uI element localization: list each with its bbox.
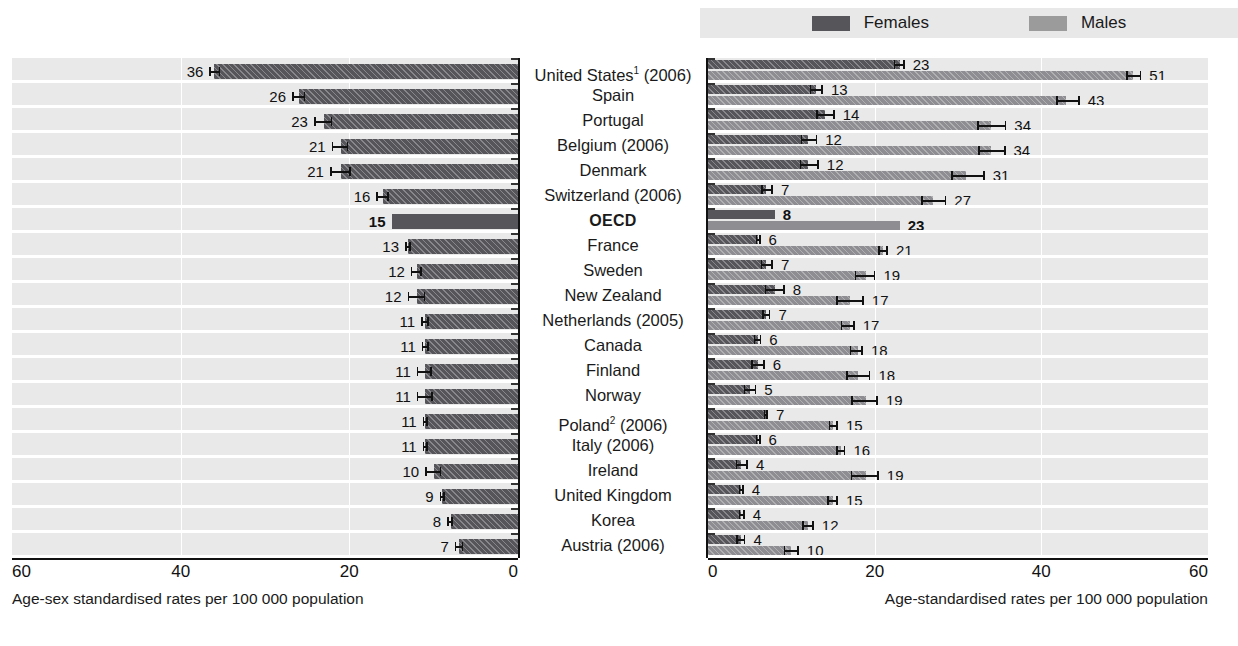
error-bar: [851, 471, 879, 480]
chart-row: 11: [12, 308, 518, 333]
x-axis-right: 0204060: [708, 562, 1208, 584]
chart-row: 715: [708, 408, 1208, 433]
row-tick: [511, 408, 518, 410]
error-bar-cap-high: [1005, 121, 1007, 130]
bar-females: [708, 435, 758, 444]
error-bar: [836, 446, 845, 455]
chart-row: 717: [708, 308, 1208, 333]
error-bar: [447, 516, 453, 527]
row-tick: [708, 533, 715, 535]
error-bar-cap-high: [903, 60, 905, 69]
bar-males: [708, 321, 850, 330]
error-bar-cap-low: [846, 371, 848, 380]
error-bar-line: [846, 375, 870, 377]
chart-row: 621: [708, 233, 1208, 258]
error-bar-line: [408, 296, 426, 298]
error-bar-cap-high: [759, 235, 761, 244]
error-bar-cap-low: [851, 471, 853, 480]
chart-row: 1434: [708, 108, 1208, 133]
bar-females: [708, 85, 816, 94]
error-bar: [810, 85, 823, 94]
axis-tick-label: 60: [1189, 562, 1208, 582]
chart-row: 1231: [708, 158, 1208, 183]
error-bar: [314, 116, 333, 127]
error-bar-cap-high: [983, 171, 985, 180]
chart-row: 1343: [708, 83, 1208, 108]
error-bar-cap-high: [427, 317, 429, 326]
legend-item-females: Females: [812, 13, 929, 33]
value-label-total: 12: [381, 266, 405, 277]
bar-males: [708, 296, 850, 305]
chart-row: 21: [12, 158, 518, 183]
error-bar-cap-low: [423, 442, 425, 451]
bar-females: [708, 410, 766, 419]
error-bar-cap-high: [862, 296, 864, 305]
chart-row: 823: [708, 208, 1208, 233]
row-tick: [511, 133, 518, 135]
error-bar: [801, 135, 818, 144]
row-tick: [708, 233, 715, 235]
error-bar: [736, 460, 749, 469]
chart-row: 13: [12, 233, 518, 258]
chart-row: 410: [708, 533, 1208, 558]
error-bar-cap-low: [422, 342, 424, 351]
bar-males: [708, 96, 1066, 105]
error-bar: [764, 410, 768, 419]
error-bar-cap-high: [1078, 96, 1080, 105]
category-label: Canada: [520, 333, 706, 358]
bar-total: [425, 364, 518, 379]
bar-males: [708, 121, 991, 130]
error-bar-cap-high: [766, 410, 768, 419]
row-tick: [511, 483, 518, 485]
chart-row: 519: [708, 383, 1208, 408]
row-tick: [511, 258, 518, 260]
bar-total: [408, 239, 518, 254]
chart-row: 419: [708, 458, 1208, 483]
error-bar-cap-high: [844, 446, 846, 455]
value-label-females: 4: [756, 459, 764, 470]
error-bar-cap-high: [853, 321, 855, 330]
error-bar: [800, 160, 819, 169]
label-footnote-marker: 2: [610, 415, 616, 426]
error-bar-cap-high: [430, 367, 432, 376]
error-bar: [1126, 71, 1141, 80]
error-bar: [405, 241, 411, 252]
error-bar-cap-high: [1004, 146, 1006, 155]
value-label-total: 8: [417, 516, 441, 527]
error-bar-cap-low: [921, 196, 923, 205]
error-bar-cap-high: [409, 242, 411, 251]
bar-total: [341, 164, 518, 179]
axis-tick-label: 0: [509, 562, 518, 582]
row-tick: [708, 433, 715, 435]
error-bar-line: [800, 164, 819, 166]
value-label-total: 16: [346, 191, 370, 202]
error-bar-cap-low: [1056, 96, 1058, 105]
error-bar: [736, 535, 745, 544]
error-bar: [422, 341, 429, 352]
axis-tick-label: 20: [340, 562, 359, 582]
error-bar-cap-low: [739, 510, 741, 519]
error-bar-cap-high: [769, 310, 771, 319]
value-label-females: 8: [783, 209, 791, 220]
value-label-total: 12: [378, 291, 402, 302]
error-bar: [761, 260, 774, 269]
category-label: Switzerland (2006): [520, 183, 706, 208]
error-bar-cap-high: [763, 360, 765, 369]
category-label: Netherlands (2005): [520, 308, 706, 333]
category-label: Austria (2006): [520, 533, 706, 558]
error-bar-cap-high: [347, 142, 349, 151]
error-bar-cap-high: [1140, 71, 1142, 80]
bar-females: [708, 510, 741, 519]
value-label-females: 7: [779, 309, 787, 320]
x-axis-title-left: Age-sex standardised rates per 100 000 p…: [12, 590, 364, 608]
x-axis-title-right: Age-standardised rates per 100 000 popul…: [885, 590, 1208, 608]
error-bar-cap-low: [421, 317, 423, 326]
value-label-females: 4: [754, 534, 762, 545]
chart-row: 618: [708, 358, 1208, 383]
error-bar-cap-high: [760, 335, 762, 344]
bar-total: [434, 464, 518, 479]
error-bar-cap-high: [783, 285, 785, 294]
error-bar-cap-low: [951, 171, 953, 180]
row-tick: [708, 158, 715, 160]
chart-row: 11: [12, 433, 518, 458]
